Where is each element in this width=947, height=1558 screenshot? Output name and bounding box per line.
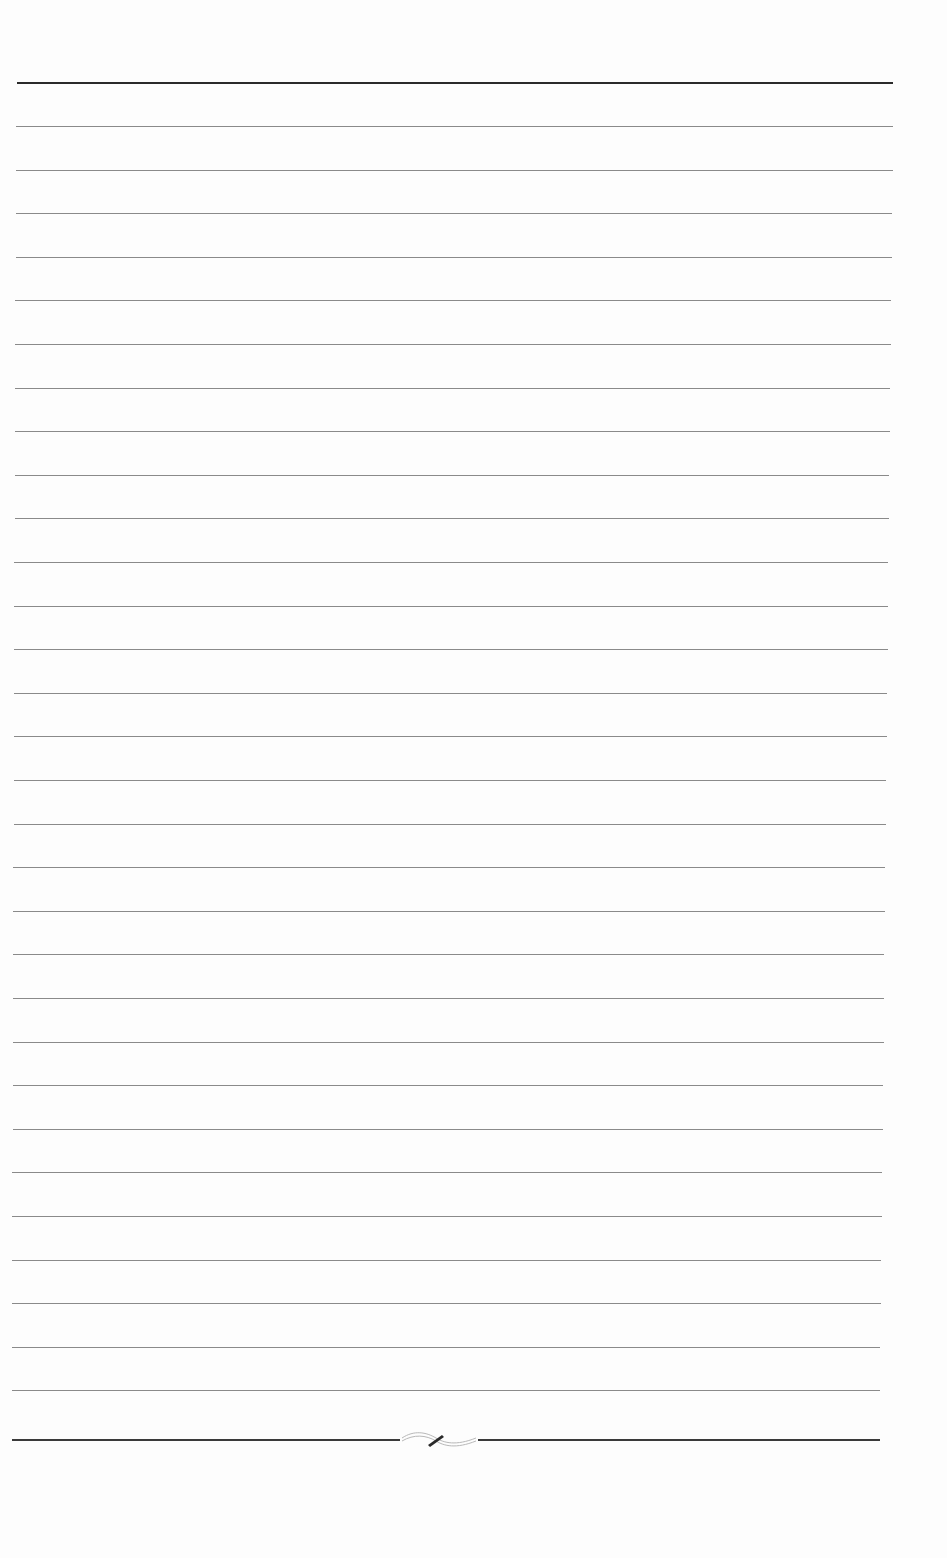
ruled-line xyxy=(16,170,893,171)
ruled-line xyxy=(12,1303,881,1304)
ruled-line xyxy=(14,562,888,563)
ruled-line xyxy=(15,300,891,301)
ruled-line xyxy=(14,606,888,607)
ruled-line xyxy=(14,780,886,781)
ruled-line xyxy=(14,824,886,825)
ruled-line xyxy=(13,954,884,955)
top-rule xyxy=(17,82,893,84)
ruled-line xyxy=(12,1347,880,1348)
bottom-rule-left xyxy=(12,1439,400,1441)
ruled-line xyxy=(15,344,891,345)
ruled-line xyxy=(15,475,889,476)
ruled-line xyxy=(14,693,887,694)
ruled-line xyxy=(13,1042,884,1043)
ruled-line xyxy=(12,1260,881,1261)
ruled-line xyxy=(15,431,890,432)
ruled-line xyxy=(13,1085,883,1086)
ruled-line xyxy=(12,1172,882,1173)
ruled-line xyxy=(15,388,890,389)
ruled-line xyxy=(13,998,884,999)
ruled-line xyxy=(14,736,887,737)
ruled-line xyxy=(15,518,889,519)
ruled-line xyxy=(16,213,892,214)
ruled-line xyxy=(13,867,885,868)
ruled-line xyxy=(16,126,893,127)
ruled-line xyxy=(12,1216,882,1217)
bottom-rule-right xyxy=(478,1439,880,1441)
flourish-divider-icon xyxy=(400,1424,478,1454)
ruled-line xyxy=(13,911,885,912)
ruled-line xyxy=(12,1390,880,1391)
ruled-line xyxy=(14,649,888,650)
ruled-page xyxy=(0,0,947,1558)
ruled-line xyxy=(16,257,892,258)
ruled-line xyxy=(13,1129,883,1130)
